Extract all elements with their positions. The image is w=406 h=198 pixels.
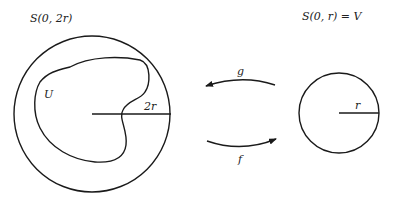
left-sphere-label: S(0, 2r) [30, 12, 72, 25]
region-u-outline [35, 58, 149, 163]
map-g-label: g [237, 65, 244, 78]
arrow-f [207, 139, 276, 147]
right-sphere-group [299, 73, 379, 153]
diagram-canvas: S(0, 2r) S(0, r) = V U 2r r g f [0, 0, 406, 198]
big-radius-label: 2r [143, 100, 157, 113]
small-radius-label: r [355, 99, 361, 112]
arrow-g [206, 80, 275, 86]
map-f-label: f [237, 153, 244, 166]
region-u-label: U [44, 88, 54, 101]
left-sphere-group [14, 36, 171, 192]
right-sphere-label: S(0, r) = V [302, 10, 363, 23]
